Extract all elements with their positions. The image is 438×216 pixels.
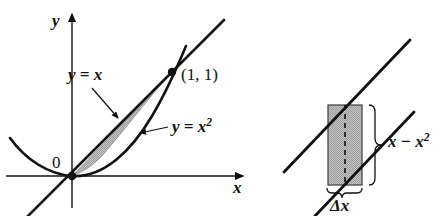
figure-canvas: y x 0 y = x y = x2 (1, 1) [0,0,438,216]
leader-line-y-equals-x [92,88,118,118]
right-panel: x − x2 Δx [284,40,430,216]
x-axis-label: x [232,178,242,197]
label-curve-y-equals-x-squared: y = x2 [170,116,212,136]
label-line-y-equals-x-text: y = x [66,65,103,84]
label-height-base: x − x [387,132,424,151]
figure-container: y x 0 y = x y = x2 (1, 1) [0,0,438,216]
label-curve-exponent: 2 [205,116,212,129]
left-panel: y x 0 y = x y = x2 (1, 1) [6,11,243,216]
origin-label: 0 [52,153,61,172]
label-intersection-text: (1, 1) [181,65,218,84]
label-width-text: Δx [329,196,350,215]
label-width-delta-x: Δx [329,196,350,215]
label-curve-base: y = x [170,117,207,136]
label-height-exponent: 2 [423,131,430,144]
label-intersection-point: (1, 1) [181,65,218,84]
height-brace [369,105,381,185]
intersection-point [168,68,176,76]
label-height-x-minus-x-squared: x − x2 [387,131,430,151]
origin-point [68,172,76,180]
label-line-y-equals-x: y = x [66,65,103,84]
y-axis-label: y [50,11,60,30]
